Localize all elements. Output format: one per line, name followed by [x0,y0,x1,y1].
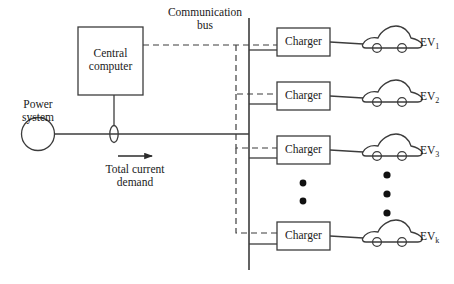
ev-label-2-name: EV [420,90,435,102]
ev-label-3-name: EV [420,144,435,156]
charger-label-3: Charger [277,143,330,156]
comm-link-charger-4 [236,148,277,233]
total-current-demand-label: Total current demand [90,163,180,188]
ev-charging-system-diagram: Power system Central computer Communicat… [0,0,454,284]
ev-car-icon-1 [362,26,422,52]
ev-label-2-subscript: 2 [435,96,439,105]
charge-cable-1 [330,42,363,44]
ev-car-icon-2 [362,80,422,106]
ev-label-1: EV1 [420,36,439,51]
ev-label-4-name: EV [420,230,435,242]
ev-label-2: EV2 [420,90,439,105]
diagram-canvas [0,0,454,284]
charger-label-2: Charger [277,89,330,102]
ev-label-4: EVk [420,230,439,245]
ev-label-4-subscript: k [435,236,439,245]
central-computer-label: Central computer [78,47,143,73]
power-system-label: Power system [4,98,72,123]
communication-bus-label: Communication bus [150,6,260,31]
ev-label-1-name: EV [420,36,435,48]
ev-column-ellipsis [383,171,390,216]
communication-bus-lines [143,45,277,233]
ev-label-3-subscript: 3 [435,150,439,159]
charge-cable-2 [330,96,363,98]
charge-cable-3 [330,150,363,152]
charger-label-1: Charger [277,35,330,48]
ev-label-1-subscript: 1 [435,42,439,51]
charger-label-4: Charger [277,229,330,242]
ev-car-icon-3 [362,134,422,160]
comm-link-charger-3 [236,94,277,148]
ev-label-3: EV3 [420,144,439,159]
charger-column-ellipsis [300,180,307,205]
ev-car-icon-4 [362,220,422,246]
charge-cable-4 [330,236,363,238]
comm-link-charger-2 [236,45,277,94]
